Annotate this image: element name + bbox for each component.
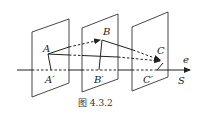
label-c-prime: C′ [143, 74, 154, 85]
segment-c-c-prime [157, 63, 163, 70]
label-c: C [157, 45, 165, 56]
figure-caption: 图 4.3.2 [78, 98, 113, 108]
vector-a-c-dashed-2 [118, 57, 160, 61]
plane-1 [32, 19, 69, 97]
label-s: S [178, 75, 185, 86]
segment-b-b-prime [99, 40, 102, 70]
label-e: e [183, 54, 189, 65]
screw-motion-diagram: A A′ B B′ C C′ e S 图 4.3.2 [0, 0, 202, 120]
label-a: A [42, 43, 50, 54]
vector-a-b-solid [48, 47, 69, 54]
vector-a-c-dashed-1 [69, 55, 82, 56]
label-b-prime: B′ [93, 74, 104, 85]
vector-a-b-dashed [69, 40, 100, 47]
segment-a-a-prime [48, 54, 51, 70]
vector-a-c-solid-1 [48, 54, 69, 55]
label-a-prime: A′ [44, 74, 55, 85]
vector-b-c-solid [102, 40, 133, 50]
label-b: B [102, 26, 110, 37]
